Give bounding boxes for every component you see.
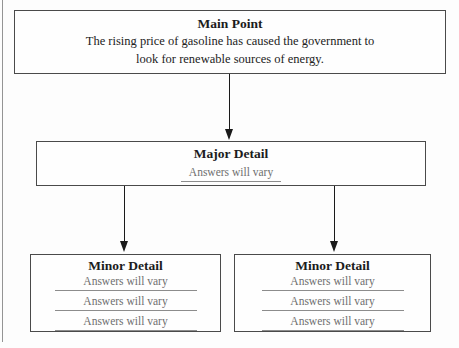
minor-detail-answer-blank: Answers will vary xyxy=(262,294,404,311)
major-detail-box: Major Detail Answers will vary xyxy=(36,141,426,186)
minor-detail-box-left: Minor Detail Answers will vary Answers w… xyxy=(30,254,221,332)
main-point-heading: Main Point xyxy=(15,16,445,32)
minor-detail-answer-blank: Answers will vary xyxy=(262,314,404,331)
minor-detail-title: Minor Detail xyxy=(235,258,430,274)
minor-detail-answer-blank: Answers will vary xyxy=(262,274,404,291)
main-point-text-line1: The rising price of gasoline has caused … xyxy=(15,33,445,51)
main-point-text-line2: look for renewable sources of energy. xyxy=(15,51,445,69)
major-detail-title: Major Detail xyxy=(37,146,425,162)
minor-detail-box-right: Minor Detail Answers will vary Answers w… xyxy=(234,254,431,332)
minor-detail-title: Minor Detail xyxy=(31,258,220,274)
minor-detail-answer-blank: Answers will vary xyxy=(55,274,197,291)
connector-line-main-to-major xyxy=(229,74,230,130)
main-point-box: Main Point The rising price of gasoline … xyxy=(14,10,446,74)
minor-detail-answer-blank: Answers will vary xyxy=(55,314,197,331)
arrow-down-icon xyxy=(225,129,233,140)
minor-detail-answer-blank: Answers will vary xyxy=(55,294,197,311)
connector-line-major-to-minor-right xyxy=(334,186,335,242)
flowchart-diagram: Main Point The rising price of gasoline … xyxy=(0,0,459,348)
connector-line-major-to-minor-left xyxy=(124,186,125,242)
page-edge-line xyxy=(2,0,3,342)
arrow-down-icon xyxy=(330,241,338,252)
major-detail-answer-blank: Answers will vary xyxy=(181,164,281,182)
arrow-down-icon xyxy=(120,241,128,252)
